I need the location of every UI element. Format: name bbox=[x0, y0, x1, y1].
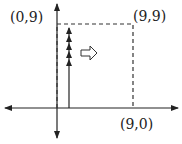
label-top-right: (9,9) bbox=[133, 8, 166, 24]
hollow-right-arrow-icon bbox=[81, 46, 97, 60]
label-top-left: (0,9) bbox=[10, 9, 43, 25]
coordinate-diagram: (0,9) (9,9) (9,0) bbox=[0, 0, 182, 144]
arrowhead-icon bbox=[66, 35, 72, 42]
arrowhead-icon bbox=[66, 43, 72, 50]
stacked-arrows bbox=[66, 27, 72, 108]
arrowhead-icon bbox=[66, 51, 72, 58]
arrowhead-icon bbox=[66, 27, 72, 34]
arrowhead-icon bbox=[66, 59, 72, 66]
label-bottom-right: (9,0) bbox=[120, 116, 153, 132]
